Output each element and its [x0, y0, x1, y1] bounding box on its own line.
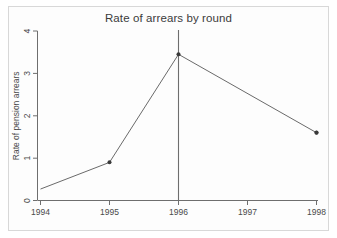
data-point-1998 — [315, 130, 319, 134]
data-point-markers — [108, 52, 319, 164]
data-point-1995 — [177, 52, 181, 56]
x-tick-label-1995: 1995 — [100, 207, 119, 217]
data-point-1994 — [108, 160, 112, 164]
y-tick-label-4: 4 — [22, 28, 32, 33]
x-tick-label-1996: 1996 — [169, 207, 188, 217]
plot-area: 0 1 2 3 4 Rate of pension arrears 1994 1… — [0, 0, 337, 238]
x-tick-label-1998: 1998 — [307, 207, 326, 217]
y-tick-label-1: 1 — [22, 156, 32, 161]
y-tick-label-3: 3 — [22, 71, 32, 76]
x-axis-ticks — [41, 201, 317, 206]
y-tick-label-0: 0 — [22, 198, 32, 203]
chart-figure: Rate of arrears by round 0 1 2 3 4 Rate … — [0, 0, 337, 238]
x-tick-label-1997: 1997 — [238, 207, 257, 217]
y-axis-ticks — [33, 31, 38, 201]
y-tick-label-2: 2 — [22, 113, 32, 118]
y-axis-title: Rate of pension arrears — [11, 71, 21, 160]
x-tick-label-1994: 1994 — [31, 207, 50, 217]
